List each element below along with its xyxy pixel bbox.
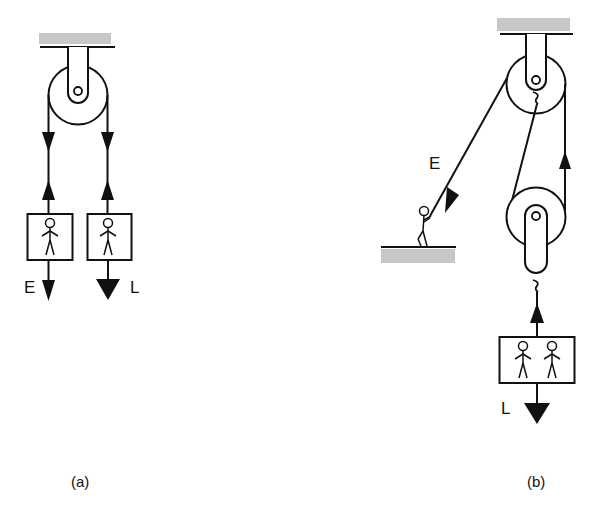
panel-a: E L (a) — [24, 33, 139, 490]
pulley-diagram: E L (a) E — [0, 0, 599, 516]
label-effort-a: E — [24, 278, 35, 297]
fixed-pulley-b — [507, 34, 566, 114]
arrow-down-icon — [96, 279, 120, 300]
label-effort-b: E — [429, 154, 440, 173]
caption-b: (b) — [527, 473, 545, 490]
ground-b — [381, 247, 456, 263]
arrow-down-icon — [524, 403, 550, 424]
arrow-up-icon — [559, 151, 571, 169]
arrow-down-icon — [101, 132, 114, 152]
ceiling-a — [39, 33, 115, 47]
ceiling-b — [497, 18, 573, 34]
arrow-down-icon — [42, 132, 55, 152]
label-load-b: L — [501, 399, 510, 418]
caption-a: (a) — [71, 473, 89, 490]
effort-rope-b — [430, 78, 507, 216]
box-load-b — [500, 337, 575, 424]
person-pulling-b — [418, 207, 431, 247]
arrow-up-icon — [42, 180, 55, 200]
arrow-down-icon — [42, 280, 55, 301]
arrow-up-icon — [101, 180, 114, 200]
movable-pulley-b — [507, 188, 566, 338]
label-load-a: L — [130, 278, 139, 297]
panel-b: E L — [381, 18, 575, 490]
box-load-a — [88, 214, 132, 300]
arrow-up-icon — [530, 303, 544, 323]
arrow-down-icon — [445, 187, 459, 213]
pulley-a — [49, 47, 108, 125]
